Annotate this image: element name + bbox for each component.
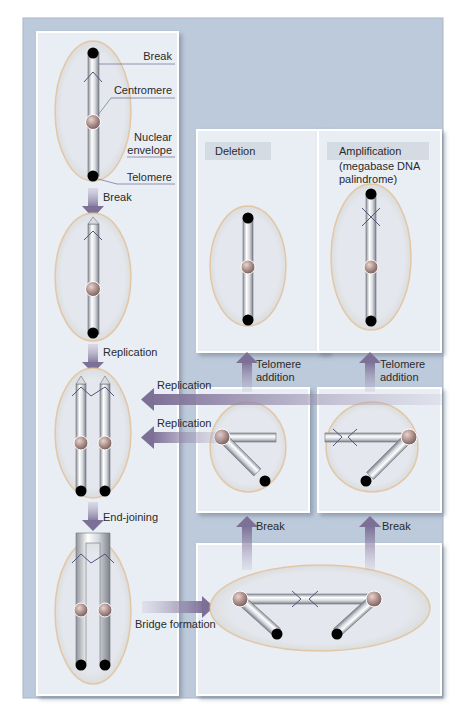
label-bridge-formation: Bridge formation [135,618,216,630]
label-amplification-sub1: (megabase DNA [339,160,421,172]
label-centromere: Centromere [114,84,172,96]
stage-broken-right [325,402,418,492]
bfb-cycle-diagram: Break Centromere Nuclear envelope Telome… [0,0,462,714]
label-telomere-addition-right-2: addition [380,371,419,383]
label-envelope: envelope [127,144,172,156]
label-break: Break [143,50,172,62]
stage-replicated [55,368,131,498]
label-break-arrow: Break [103,191,132,203]
stage-bridge [210,565,430,651]
stage-broken [55,213,131,341]
stage-broken-left [210,402,286,492]
label-break-left: Break [256,520,285,532]
label-replication-h1: Replication [157,379,211,391]
arrow-bridge-formation: Bridge formation [135,596,216,630]
label-telomere-addition-left-1: Telomere [256,358,301,370]
label-replication-h2: Replication [157,417,211,429]
label-amplification: Amplification [339,145,401,157]
label-telomere-addition-left-2: addition [256,371,295,383]
label-nuclear: Nuclear [134,131,172,143]
label-amplification-sub2: palindrome) [339,173,397,185]
label-telomere-addition-right-1: Telomere [380,358,425,370]
label-telomere: Telomere [127,171,172,183]
label-end-joining: End-joining [103,511,158,523]
label-break-right: Break [382,520,411,532]
label-replication-arrow: Replication [103,346,157,358]
label-deletion: Deletion [215,145,255,157]
